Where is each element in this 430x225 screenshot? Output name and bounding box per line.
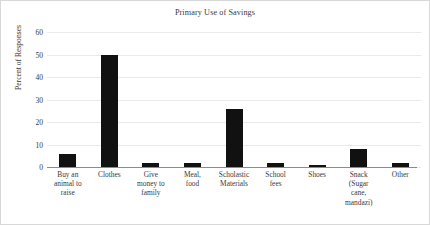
bar-slot	[296, 32, 338, 167]
x-axis-tick-label-line: Snack	[339, 170, 379, 179]
x-axis-tick-label-line: Shoes	[297, 170, 337, 179]
y-axis-tick-label: 0	[3, 163, 43, 172]
x-axis-tick-label-line: School	[256, 170, 296, 179]
x-axis-tick-label-line: food	[173, 179, 213, 188]
x-axis-tick-label-line: cane,	[339, 188, 379, 197]
y-axis-tick-label: 50	[3, 50, 43, 59]
bar-slot	[130, 32, 172, 167]
x-axis-tick-label: Schoolfees	[255, 170, 297, 188]
bar[interactable]	[142, 163, 159, 168]
x-axis-tick-label-line: fees	[256, 179, 296, 188]
bar-slot	[338, 32, 380, 167]
chart-figure: Primary Use of Savings Percent of Respon…	[0, 0, 430, 225]
bar-slot	[47, 32, 89, 167]
bar-slot	[213, 32, 255, 167]
x-axis-tick-label-line: family	[131, 188, 171, 197]
x-axis-tick-label: Clothes	[89, 170, 131, 179]
y-axis-tick-label: 40	[3, 73, 43, 82]
x-axis-tick-label-line: Give	[131, 170, 171, 179]
bar-slot	[89, 32, 131, 167]
x-axis-tick-label-line: money to	[131, 179, 171, 188]
x-axis-tick-label-line: Materials	[214, 179, 254, 188]
bar[interactable]	[267, 163, 284, 168]
bar[interactable]	[101, 55, 118, 168]
x-axis-tick-label-line: (Sugar	[339, 179, 379, 188]
x-axis-tick-label: Shoes	[296, 170, 338, 179]
bar-series	[47, 32, 421, 167]
x-axis-tick-label: Meal,food	[172, 170, 214, 188]
bar[interactable]	[309, 165, 326, 167]
x-axis-tick-label-line: mandazi)	[339, 198, 379, 207]
y-axis-tick-label: 60	[3, 28, 43, 37]
bar-slot	[172, 32, 214, 167]
x-axis-tick-label-line: Scholastic	[214, 170, 254, 179]
x-axis-tick-label: Other	[380, 170, 422, 179]
x-axis-tick-label: Buy ananimal toraise	[47, 170, 89, 198]
x-axis-tick-label: Givemoney tofamily	[130, 170, 172, 198]
x-axis-line	[47, 167, 417, 168]
x-axis-tick-label-line: raise	[48, 188, 88, 197]
y-axis-tick-label: 20	[3, 118, 43, 127]
x-axis-tick-label-line: Buy an	[48, 170, 88, 179]
y-axis-ticks: 6050403020100	[1, 32, 43, 167]
bar[interactable]	[226, 109, 243, 168]
chart-title: Primary Use of Savings	[1, 8, 429, 17]
bar[interactable]	[59, 154, 76, 168]
bar-slot	[255, 32, 297, 167]
bar[interactable]	[350, 149, 367, 167]
bar-slot	[380, 32, 422, 167]
x-axis-labels: Buy ananimal toraiseClothesGivemoney tof…	[47, 170, 421, 207]
x-axis-tick-label-line: Clothes	[90, 170, 130, 179]
y-axis-tick-label: 30	[3, 95, 43, 104]
x-axis-tick-label-line: animal to	[48, 179, 88, 188]
x-axis-tick-label: Snack(Sugarcane,mandazi)	[338, 170, 380, 207]
x-axis-tick-label-line: Other	[381, 170, 421, 179]
bar[interactable]	[392, 163, 409, 168]
bar[interactable]	[184, 163, 201, 168]
x-axis-tick-label: ScholasticMaterials	[213, 170, 255, 188]
y-axis-tick-label: 10	[3, 140, 43, 149]
x-axis-tick-label-line: Meal,	[173, 170, 213, 179]
